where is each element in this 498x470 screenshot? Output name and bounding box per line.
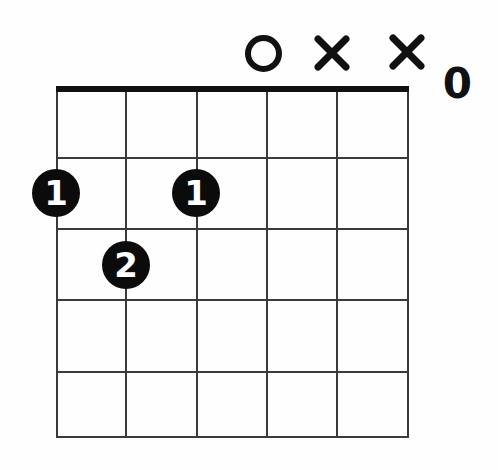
open-string-zero-label: 0 — [443, 63, 472, 105]
fret-line-1 — [56, 157, 409, 159]
string-line-2 — [336, 92, 338, 437]
fret-line-5 — [56, 436, 409, 438]
nut-bar — [56, 86, 409, 92]
string-line-1 — [407, 92, 409, 437]
fret-line-3 — [56, 299, 409, 301]
string-line-6 — [56, 92, 58, 437]
fret-line-4 — [56, 371, 409, 373]
open-string-circle-icon — [245, 35, 282, 72]
muted-string-x-icon-2 — [389, 34, 425, 70]
finger-dot: 1 — [172, 169, 220, 217]
muted-string-x-icon-1 — [314, 35, 350, 71]
string-line-3 — [266, 92, 268, 437]
chord-diagram: 0 1 2 1 — [0, 0, 498, 470]
string-line-4 — [196, 92, 198, 437]
fret-line-2 — [56, 228, 409, 230]
finger-dot: 2 — [102, 241, 150, 289]
finger-dot: 1 — [32, 169, 80, 217]
